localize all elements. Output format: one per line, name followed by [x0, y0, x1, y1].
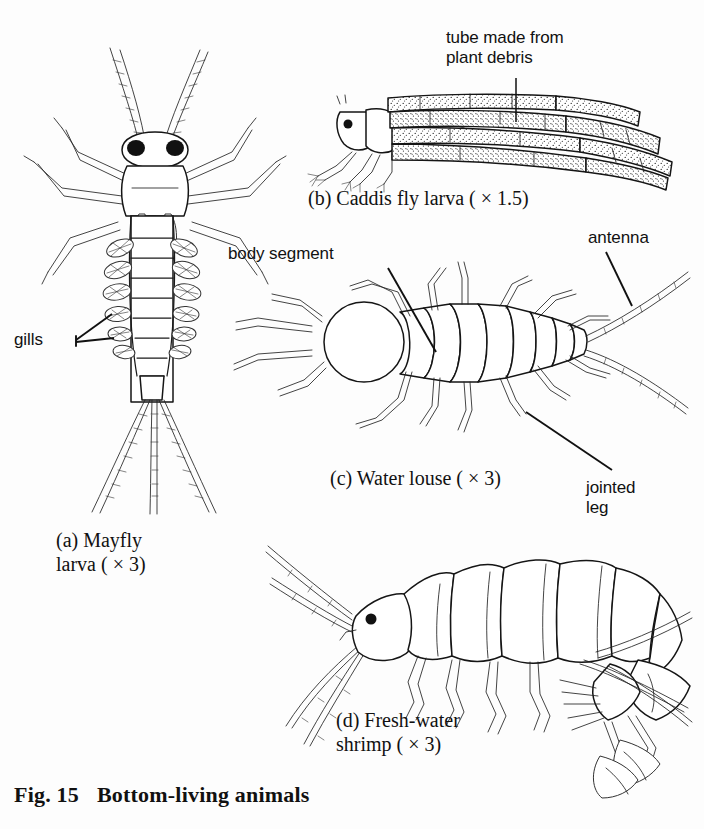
annotation-gills: gills [14, 330, 43, 350]
louse-body-segments [400, 304, 587, 382]
louse-front-appendages [234, 294, 326, 396]
drawing-caddis-fly-larva [308, 78, 672, 192]
mayfly-eye-right [166, 140, 184, 156]
caddis-tube [388, 94, 672, 190]
annotation-tube-made-from-plant-debris: tube made from plant debris [446, 28, 564, 68]
annotation-jointed-leg: jointed leg [586, 478, 635, 518]
annotation-body-segment: body segment [228, 244, 334, 264]
leader-antenna [606, 252, 632, 306]
mayfly-abdomen [129, 216, 174, 402]
caddis-eye [344, 120, 353, 129]
figure-title-line: Fig. 15Bottom-living animals [14, 782, 310, 808]
caption-mayfly-larva: (a) Mayfly larva ( × 3) [56, 528, 146, 576]
figure-number: Fig. 15 [14, 782, 79, 807]
mayfly-thorax [122, 166, 189, 216]
shrimp-head [352, 594, 415, 661]
drawing-fresh-water-shrimp [266, 546, 692, 798]
figure-title: Bottom-living animals [97, 782, 310, 807]
figure-bottom-living-animals: tube made from plant debris gills body s… [0, 0, 704, 829]
mayfly-legs-left [24, 118, 128, 284]
shrimp-eye [366, 614, 377, 625]
louse-head [324, 302, 404, 382]
drawing-mayfly-larva [24, 48, 286, 514]
caption-fresh-water-shrimp: (d) Fresh-water shrimp ( × 3) [336, 708, 460, 756]
caption-caddis-fly-larva: (b) Caddis fly larva ( × 1.5) [308, 186, 529, 210]
drawing-water-louse [234, 252, 690, 470]
annotation-antenna: antenna [588, 228, 649, 248]
louse-antennae [584, 272, 690, 414]
mayfly-eye-left [127, 140, 145, 156]
mayfly-tail-filaments [92, 400, 216, 514]
caption-water-louse: (c) Water louse ( × 3) [330, 466, 501, 490]
shrimp-body-segments [404, 560, 682, 672]
leader-jointed-leg [526, 412, 612, 470]
figure-artwork [0, 0, 704, 829]
